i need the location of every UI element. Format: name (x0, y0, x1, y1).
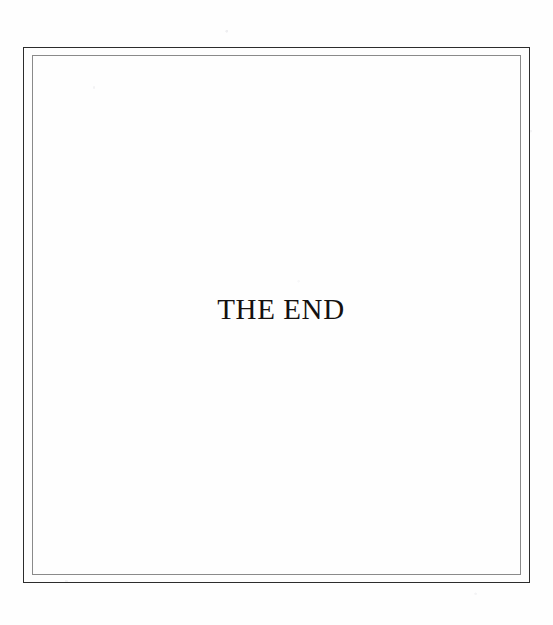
scanned-page: THE END (0, 0, 553, 625)
the-end-text: THE END (0, 292, 553, 326)
